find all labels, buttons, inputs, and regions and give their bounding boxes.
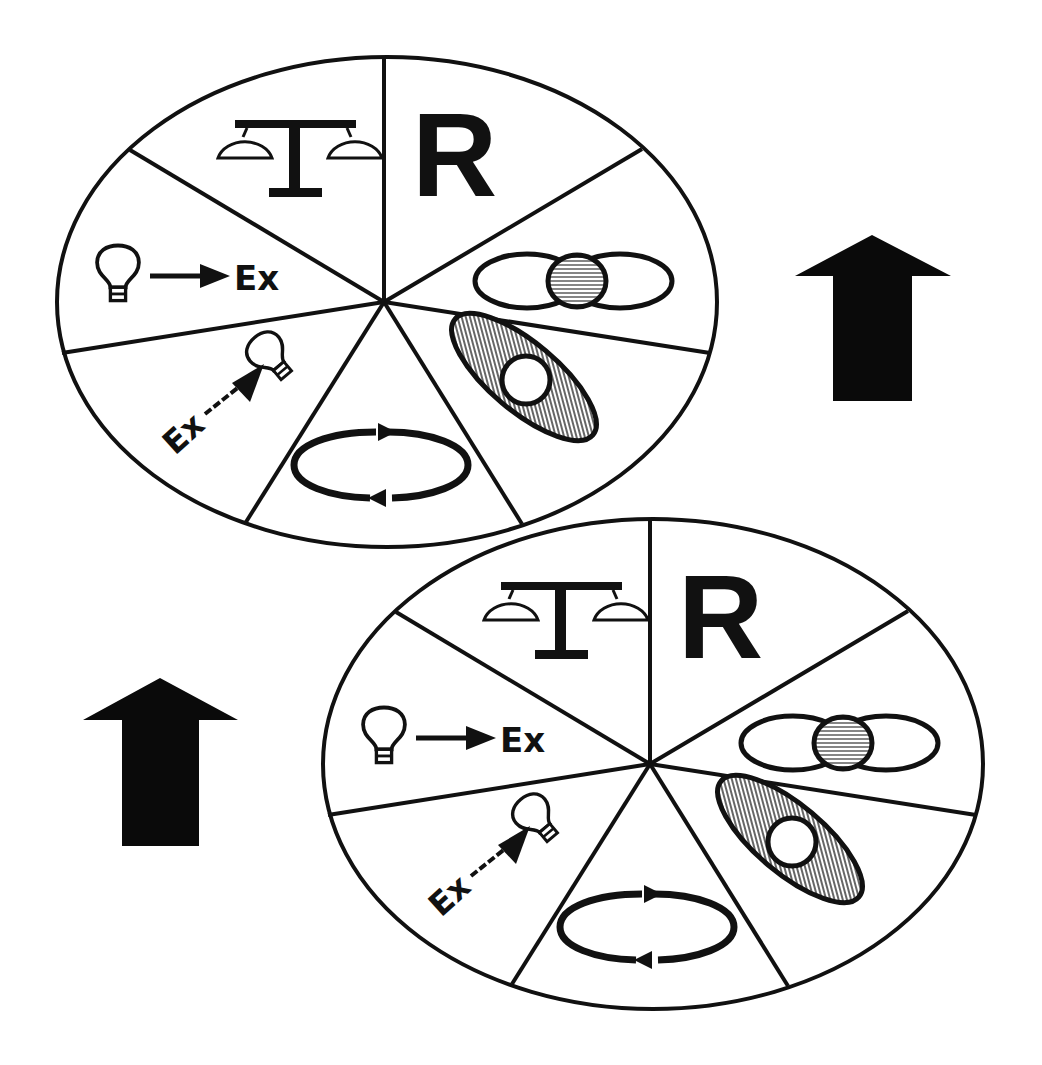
wheel-top xyxy=(57,57,717,547)
up-arrow-icon xyxy=(83,678,238,846)
up-arrow-icon xyxy=(795,235,951,401)
wheel-bottom xyxy=(323,519,983,1009)
diagram-canvas: R Ex xyxy=(0,0,1042,1065)
